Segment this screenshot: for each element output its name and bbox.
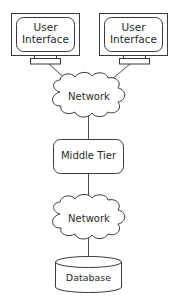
network-bottom-label: Network [58,213,120,225]
ui-left-label-line1: User [16,21,75,33]
network-top-label: Network [58,91,120,103]
database-label: Database [55,273,122,284]
ui-right-label-line1: User [104,21,163,33]
ui-left-label: User Interface [16,21,75,45]
middle-tier-label: Middle Tier [53,150,124,162]
ui-right-label: User Interface [104,21,163,45]
ui-right-label-line2: Interface [104,33,163,45]
ui-left-label-line2: Interface [16,33,75,45]
